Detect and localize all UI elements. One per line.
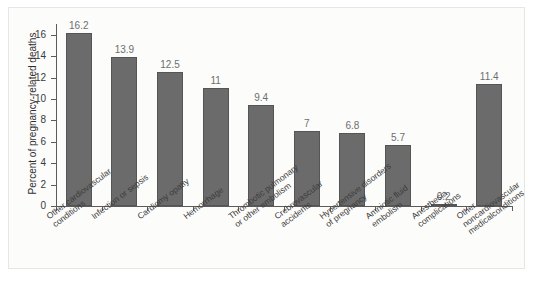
bar-chart-plot-area: Percent of pregnancy-related deaths 0246… bbox=[0, 0, 540, 287]
y-axis-tick-label: 8 bbox=[24, 114, 46, 125]
y-axis-line bbox=[56, 24, 57, 207]
bar-value-label: 13.9 bbox=[104, 44, 144, 55]
bar-value-label: 5.7 bbox=[378, 132, 418, 143]
bar-value-label: 12.5 bbox=[150, 59, 190, 70]
y-axis-tick bbox=[51, 120, 56, 121]
y-axis-tick bbox=[51, 185, 56, 186]
y-axis-tick bbox=[51, 142, 56, 143]
y-axis-tick-label: 2 bbox=[24, 179, 46, 190]
figure: Percent of pregnancy-related deaths 0246… bbox=[0, 0, 540, 287]
y-axis-tick bbox=[51, 35, 56, 36]
bar-value-label: 9.4 bbox=[241, 92, 281, 103]
y-axis-tick-label: 6 bbox=[24, 136, 46, 147]
y-axis-tick bbox=[51, 56, 56, 57]
y-axis-tick bbox=[51, 78, 56, 79]
bar-value-label: 7 bbox=[287, 118, 327, 129]
bar-value-label: 6.8 bbox=[332, 120, 372, 131]
y-axis-tick-label: 10 bbox=[24, 93, 46, 104]
y-axis-tick-label: 4 bbox=[24, 157, 46, 168]
y-axis-tick-label: 0 bbox=[24, 200, 46, 211]
x-axis-tick bbox=[512, 206, 513, 211]
y-axis-tick-label: 14 bbox=[24, 50, 46, 61]
y-axis-tick-label: 16 bbox=[24, 29, 46, 40]
y-axis-tick bbox=[51, 163, 56, 164]
y-axis-tick-label: 12 bbox=[24, 72, 46, 83]
bar-value-label: 11 bbox=[196, 75, 236, 86]
bar-value-label: 11.4 bbox=[469, 71, 509, 82]
bar-value-label: 16.2 bbox=[59, 20, 99, 31]
y-axis-tick bbox=[51, 99, 56, 100]
